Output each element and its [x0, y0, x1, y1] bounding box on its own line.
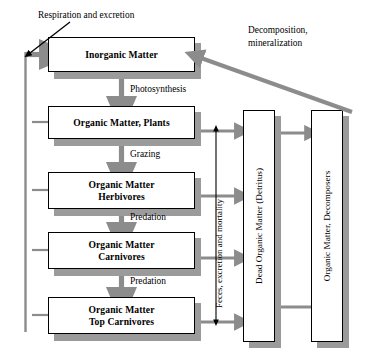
label-feces-excretion-and-mortality: Feces, excretion and mortality — [214, 199, 224, 308]
overlay-arrow-layer — [0, 0, 381, 357]
label-decomposition-line1: Decomposition, — [248, 25, 308, 35]
label-grazing: Grazing — [130, 149, 160, 159]
label-predation-first: Predation — [130, 212, 166, 222]
arrow-decomposition-mineralization — [201, 58, 352, 112]
label-predation-second: Predation — [130, 276, 166, 286]
pointer-respiration-and-excretion — [30, 22, 70, 53]
label-photosynthesis: Photosynthesis — [130, 84, 186, 94]
label-respiration-and-excretion: Respiration and excretion — [38, 10, 134, 20]
label-decomposition-line2: mineralization — [248, 38, 302, 48]
ecosystem-flow-diagram: Inorganic Matter Organic Matter, Plants … — [0, 0, 381, 357]
